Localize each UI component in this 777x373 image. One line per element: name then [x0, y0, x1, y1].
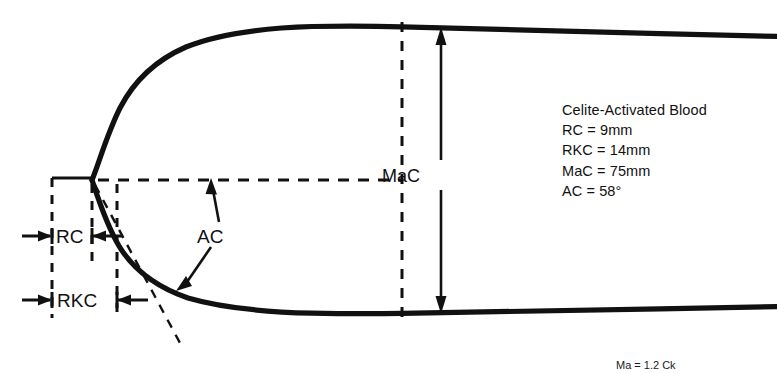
rkc-arrowhead-right — [117, 295, 131, 306]
legend-line-rkc: RKC = 14mm — [562, 140, 707, 160]
ac-angle-callout: AC — [176, 178, 223, 291]
rc-arrowhead-left — [38, 231, 52, 242]
legend-line-rc: RC = 9mm — [562, 120, 707, 140]
rc-dimension: RC — [22, 226, 122, 247]
mac-dimension: MaC — [382, 27, 447, 314]
rc-arrowhead-right — [92, 231, 106, 242]
rc-label: RC — [56, 226, 83, 247]
legend-line-title: Celite-Activated Blood — [562, 100, 707, 120]
footnote-text: Ma = 1.2 Ck — [616, 359, 676, 373]
legend-line-ac: AC = 58° — [562, 181, 707, 201]
ac-leader-down — [187, 247, 211, 282]
ac-label: AC — [197, 226, 223, 247]
mac-label: MaC — [382, 166, 420, 186]
legend-block: Celite-Activated Blood RC = 9mm RKC = 14… — [562, 100, 707, 201]
alpha-tangent-dashed — [95, 185, 180, 343]
legend-line-mac: MaC = 75mm — [562, 161, 707, 181]
rkc-label: RKC — [57, 290, 97, 311]
ac-leader-up — [213, 190, 219, 222]
rkc-dimension: RKC — [22, 290, 148, 311]
rkc-arrowhead-left — [38, 295, 52, 306]
